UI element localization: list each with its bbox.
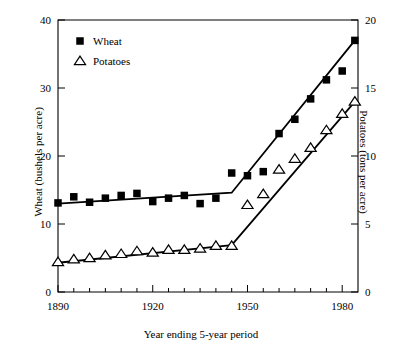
- x-axis-label: Year ending 5-year period: [0, 328, 402, 340]
- chart-plot-area: 189019201950198001020304005101520 WheatP…: [0, 0, 402, 355]
- svg-text:1920: 1920: [142, 300, 165, 312]
- axis-tick-labels: 189019201950198001020304005101520: [40, 14, 377, 312]
- svg-text:1890: 1890: [47, 300, 70, 312]
- svg-text:Wheat: Wheat: [93, 35, 122, 47]
- chart-legend: WheatPotatoes: [74, 35, 130, 67]
- svg-text:1980: 1980: [331, 300, 354, 312]
- svg-text:0: 0: [365, 286, 371, 298]
- svg-text:40: 40: [40, 14, 52, 26]
- y-axis-label-right: Potatoes (tons per acre): [358, 62, 370, 262]
- chart-container: 189019201950198001020304005101520 WheatP…: [0, 0, 402, 355]
- svg-text:0: 0: [46, 286, 52, 298]
- y-axis-label-left: Wheat (bushels per acre): [32, 62, 44, 262]
- svg-text:20: 20: [365, 14, 377, 26]
- data-markers: [52, 37, 360, 266]
- svg-text:Potatoes: Potatoes: [93, 55, 130, 67]
- svg-text:1950: 1950: [236, 300, 259, 312]
